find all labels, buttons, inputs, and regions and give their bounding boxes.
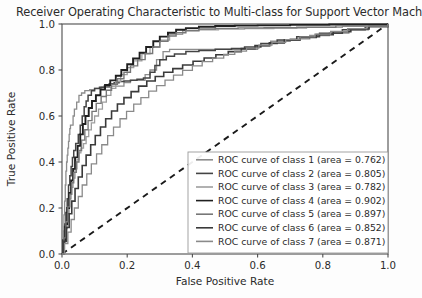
roc-chart-figure: Receiver Operating Characteristic to Mul… (0, 0, 422, 298)
y-axis-ticks: 0.00.20.40.60.81.0 (39, 19, 62, 260)
y-tick-label: 0.0 (39, 249, 55, 260)
x-axis-label: False Positive Rate (176, 275, 274, 287)
legend-label-class-1[interactable]: ROC curve of class 1 (area = 0.762) (218, 154, 385, 165)
legend-label-class-7[interactable]: ROC curve of class 7 (area = 0.871) (218, 236, 385, 247)
y-tick-label: 1.0 (39, 19, 55, 30)
legend[interactable]: ROC curve of class 1 (area = 0.762)ROC c… (188, 152, 388, 253)
legend-label-class-2[interactable]: ROC curve of class 2 (area = 0.805) (218, 168, 385, 179)
legend-label-class-5[interactable]: ROC curve of class 5 (area = 0.897) (218, 208, 385, 219)
legend-label-class-6[interactable]: ROC curve of class 6 (area = 0.852) (218, 222, 385, 233)
y-tick-label: 0.4 (39, 157, 55, 168)
legend-label-class-4[interactable]: ROC curve of class 4 (area = 0.902) (218, 195, 385, 206)
x-tick-label: 0.2 (119, 260, 135, 271)
x-axis-ticks: 0.00.20.40.60.81.0 (54, 254, 396, 271)
x-tick-label: 0.6 (249, 260, 265, 271)
plot-canvas: 0.00.20.40.60.81.0 0.00.20.40.60.81.0 Fa… (0, 0, 422, 298)
y-tick-label: 0.2 (39, 203, 55, 214)
y-tick-label: 0.6 (39, 111, 55, 122)
x-tick-label: 0.0 (54, 260, 70, 271)
x-tick-label: 0.4 (184, 260, 200, 271)
x-tick-label: 0.8 (315, 260, 331, 271)
y-tick-label: 0.8 (39, 65, 55, 76)
legend-entries[interactable]: ROC curve of class 1 (area = 0.762)ROC c… (196, 154, 385, 247)
y-axis-label: True Positive Rate (5, 92, 17, 187)
legend-label-class-3[interactable]: ROC curve of class 3 (area = 0.782) (218, 181, 385, 192)
x-tick-label: 1.0 (380, 260, 396, 271)
